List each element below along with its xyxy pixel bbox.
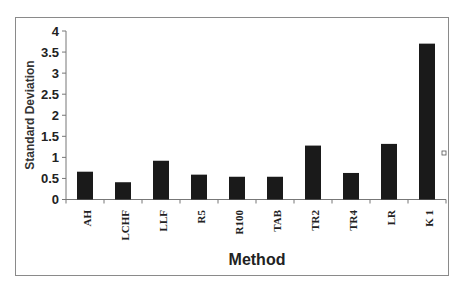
y-axis: 00.511.522.533.54 <box>41 24 66 208</box>
bar-lchf <box>115 182 131 199</box>
legend-marker <box>442 151 446 155</box>
bar-chart: 00.511.522.533.54 AHLCHFLLFR5R100TABTR2T… <box>0 0 465 292</box>
x-tick-label: LLF <box>157 210 169 232</box>
y-tick-label: 2.5 <box>41 87 59 102</box>
x-tick-label: TAB <box>271 209 283 231</box>
x-tick-label: R5 <box>195 210 207 224</box>
x-tick-label: R100 <box>233 210 245 235</box>
bar-llf <box>153 161 169 200</box>
y-tick-label: 0.5 <box>41 171 59 186</box>
y-tick-label: 1.5 <box>41 129 59 144</box>
y-tick-label: 2 <box>52 108 59 123</box>
bar-k1 <box>419 44 435 200</box>
bar-r100 <box>229 177 245 200</box>
bars <box>77 44 435 200</box>
x-tick-label: AH <box>81 210 93 227</box>
x-tick-label: LCHF <box>119 210 131 241</box>
bar-tr2 <box>305 146 321 200</box>
bar-lr <box>381 144 397 200</box>
y-tick-label: 1 <box>52 150 59 165</box>
y-tick-label: 4 <box>52 24 60 39</box>
x-tick-label: K 1 <box>423 210 435 227</box>
x-tick-label: TR4 <box>347 210 359 231</box>
y-axis-label: Standard Deviation <box>23 60 37 169</box>
x-tick-label: LR <box>385 209 397 225</box>
bar-tab <box>267 177 283 200</box>
bar-tr4 <box>343 173 359 200</box>
bar-ah <box>77 172 93 200</box>
y-tick-label: 0 <box>52 192 59 207</box>
x-tick-label: TR2 <box>309 210 321 231</box>
x-axis-label: Method <box>229 251 286 268</box>
bar-r5 <box>191 175 207 200</box>
y-tick-label: 3 <box>52 66 59 81</box>
x-axis: AHLCHFLLFR5R100TABTR2TR4LRK 1 <box>66 200 446 241</box>
y-tick-label: 3.5 <box>41 45 59 60</box>
